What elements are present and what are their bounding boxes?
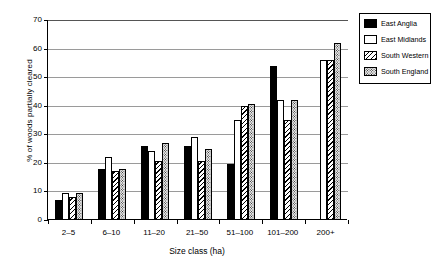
legend-item: South England bbox=[364, 67, 426, 76]
x-axis-title: Size class (ha) bbox=[47, 246, 347, 256]
x-tick-mark bbox=[48, 220, 49, 224]
bar bbox=[270, 66, 277, 220]
y-tick-label: 0 bbox=[22, 216, 42, 224]
x-tick-label: 200+ bbox=[304, 228, 347, 237]
y-tick-label: 60 bbox=[22, 45, 42, 53]
bar bbox=[55, 200, 62, 220]
bar-group bbox=[305, 20, 348, 220]
x-tick-mark bbox=[305, 220, 306, 224]
x-tick-label: 101–200 bbox=[261, 228, 304, 237]
x-tick-label: 51–100 bbox=[218, 228, 261, 237]
x-tick-mark bbox=[348, 220, 349, 224]
bar bbox=[284, 120, 291, 220]
bar bbox=[141, 146, 148, 220]
chart-legend: East AngliaEast MidlandsSouth WesternSou… bbox=[359, 13, 431, 84]
x-tick-label: 6–10 bbox=[90, 228, 133, 237]
bar bbox=[98, 169, 105, 220]
bar bbox=[227, 164, 234, 220]
bar-group bbox=[219, 20, 262, 220]
legend-label: South England bbox=[381, 67, 428, 76]
y-tick-label: 70 bbox=[22, 16, 42, 24]
bar bbox=[76, 193, 83, 220]
bar bbox=[155, 161, 162, 220]
y-tick-label: 40 bbox=[22, 102, 42, 110]
legend-item: South Western bbox=[364, 51, 426, 60]
bar bbox=[62, 193, 69, 220]
x-tick-label: 2–5 bbox=[47, 228, 90, 237]
bar-group bbox=[48, 20, 91, 220]
bar bbox=[248, 104, 255, 220]
bar-chart-figure: % of woods partially cleared 01020304050… bbox=[0, 0, 435, 276]
bar-group bbox=[134, 20, 177, 220]
bar bbox=[205, 149, 212, 220]
bar bbox=[198, 161, 205, 220]
x-tick-mark bbox=[177, 220, 178, 224]
bar bbox=[291, 100, 298, 220]
legend-swatch-dotted-stipple bbox=[364, 67, 377, 76]
y-tick-label: 30 bbox=[22, 130, 42, 138]
legend-label: South Western bbox=[381, 51, 428, 60]
legend-item: East Midlands bbox=[364, 35, 426, 44]
bar bbox=[69, 197, 76, 220]
x-tick-mark bbox=[262, 220, 263, 224]
legend-swatch-solid-black bbox=[364, 19, 377, 28]
bar-group bbox=[91, 20, 134, 220]
legend-label: East Anglia bbox=[381, 19, 417, 28]
bar bbox=[148, 151, 155, 220]
x-tick-label: 11–20 bbox=[133, 228, 176, 237]
bar bbox=[327, 60, 334, 220]
y-tick-label: 20 bbox=[22, 159, 42, 167]
bar bbox=[241, 106, 248, 220]
bar bbox=[184, 146, 191, 220]
x-axis-tick-labels: 2–56–1011–2021–5051–100101–200200+ bbox=[47, 228, 347, 237]
legend-label: East Midlands bbox=[381, 35, 426, 44]
plot-area: 010203040506070 bbox=[47, 20, 347, 220]
x-tick-mark bbox=[219, 220, 220, 224]
bar bbox=[162, 143, 169, 220]
bar bbox=[191, 137, 198, 220]
y-tick-label: 10 bbox=[22, 187, 42, 195]
bar bbox=[112, 171, 119, 220]
bar bbox=[277, 100, 284, 220]
y-tick-label: 50 bbox=[22, 73, 42, 81]
bar bbox=[234, 120, 241, 220]
bar bbox=[334, 43, 341, 220]
x-tick-label: 21–50 bbox=[176, 228, 219, 237]
bar-groups bbox=[48, 20, 348, 220]
x-tick-mark bbox=[91, 220, 92, 224]
bar bbox=[320, 60, 327, 220]
legend-swatch-white-outline bbox=[364, 35, 377, 44]
bar-group bbox=[262, 20, 305, 220]
x-tick-mark bbox=[134, 220, 135, 224]
legend-item: East Anglia bbox=[364, 19, 426, 28]
bar bbox=[105, 157, 112, 220]
bar-group bbox=[177, 20, 220, 220]
legend-swatch-diagonal-hatch bbox=[364, 51, 377, 60]
bar bbox=[119, 169, 126, 220]
